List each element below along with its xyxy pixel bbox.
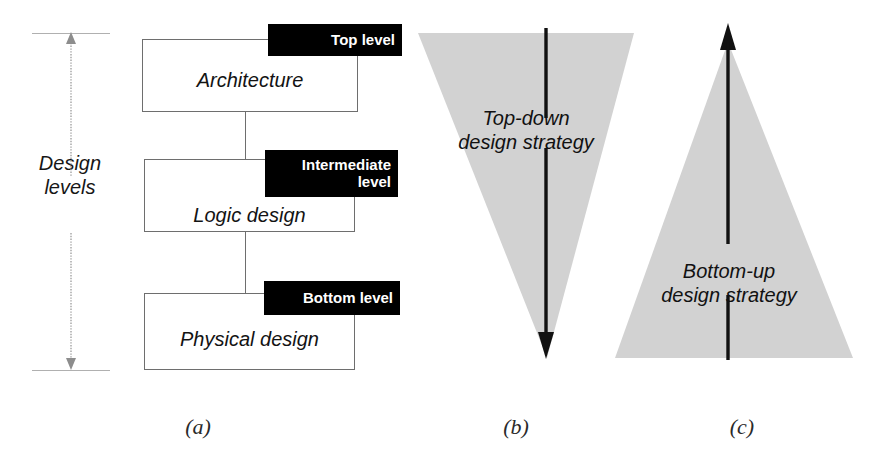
top-down-strategy-label: Top-down design strategy bbox=[414, 106, 638, 154]
design-levels-dimension: Design levels bbox=[0, 0, 140, 400]
tag-bottom-level: Bottom level bbox=[264, 281, 400, 315]
bottom-up-arrow-icon bbox=[712, 20, 744, 364]
tag-intermediate-level-line1: Intermediate bbox=[302, 157, 391, 174]
level-box-logic-design-label: Logic design bbox=[145, 204, 354, 227]
top-down-arrow-icon bbox=[530, 26, 562, 366]
figure-design-levels-strategies: Design levels Architecture Top level Log… bbox=[0, 0, 879, 466]
connector-intermediate-to-bottom bbox=[245, 231, 246, 294]
level-box-architecture-label: Architecture bbox=[143, 69, 357, 92]
caption-c: (c) bbox=[712, 414, 772, 440]
inverted-triangle-top-down bbox=[410, 28, 642, 368]
dimension-double-arrow bbox=[56, 28, 86, 376]
tag-intermediate-level: Intermediate level bbox=[265, 150, 398, 197]
bottom-up-strategy-label-line2: design strategy bbox=[661, 284, 797, 306]
top-down-strategy-label-line1: Top-down bbox=[482, 107, 569, 129]
connector-top-to-intermediate bbox=[245, 111, 246, 160]
tag-intermediate-level-line2: level bbox=[358, 174, 391, 191]
caption-a: (a) bbox=[168, 414, 228, 440]
top-down-strategy-label-line2: design strategy bbox=[458, 131, 594, 153]
level-box-physical-design-label: Physical design bbox=[145, 328, 354, 351]
caption-b: (b) bbox=[486, 414, 546, 440]
tag-top-level-line1: Top level bbox=[331, 32, 395, 49]
tag-bottom-level-line1: Bottom level bbox=[303, 290, 393, 307]
tag-top-level: Top level bbox=[268, 24, 402, 56]
bottom-up-strategy-label-line1: Bottom-up bbox=[683, 260, 775, 282]
bottom-up-strategy-label: Bottom-up design strategy bbox=[614, 259, 844, 307]
